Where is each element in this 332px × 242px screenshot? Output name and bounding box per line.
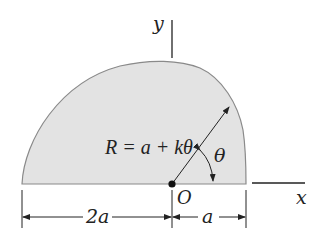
origin-label: O — [177, 189, 192, 207]
curve-equation: R = a + kθ — [105, 137, 193, 157]
diagram-graphics — [0, 0, 332, 242]
spiral-area-diagram: y x O R = a + kθ θ 2a a — [0, 0, 332, 242]
y-axis-label: y — [153, 14, 164, 33]
x-axis-label: x — [296, 188, 307, 207]
dim-label-a: a — [202, 207, 213, 226]
shaded-region — [22, 61, 246, 184]
origin-point — [168, 180, 175, 187]
dim-label-2a: 2a — [86, 207, 109, 226]
angle-label: θ — [214, 146, 225, 165]
